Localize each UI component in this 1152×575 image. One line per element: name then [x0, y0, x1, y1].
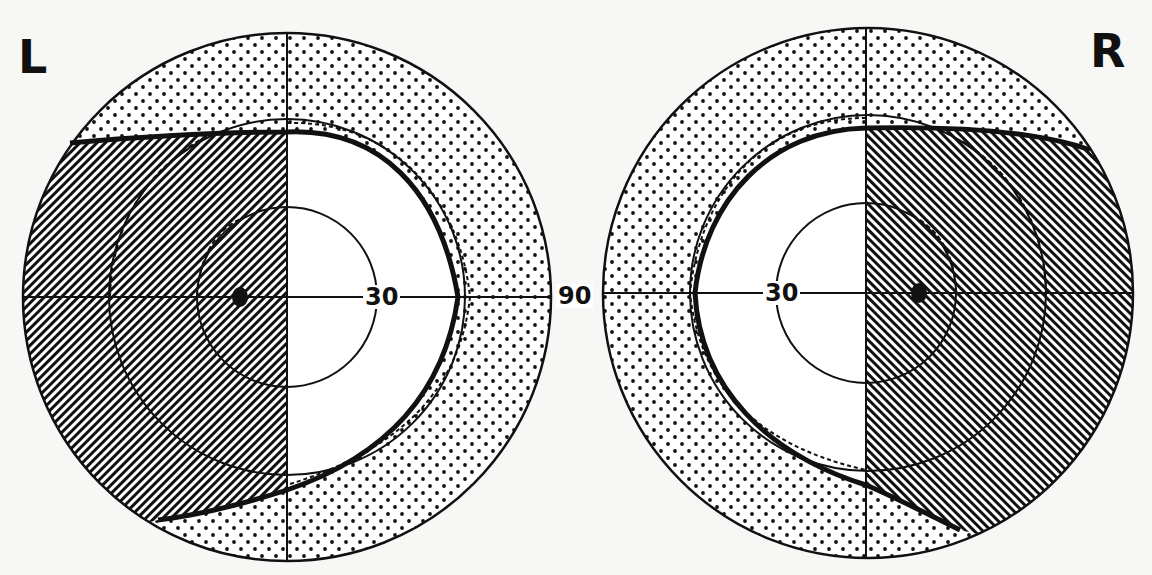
right-blind-spot — [911, 283, 927, 303]
left-blind-spot — [232, 287, 248, 307]
left-eye-field — [0, 33, 551, 561]
left-30-degree-label: 30 — [363, 285, 400, 309]
right-30-degree-label: 30 — [763, 281, 800, 305]
left-eye-label: L — [18, 34, 47, 80]
center-90-degree-label: 90 — [556, 284, 593, 308]
right-eye-field — [603, 28, 1152, 575]
right-eye-label: R — [1090, 28, 1125, 74]
